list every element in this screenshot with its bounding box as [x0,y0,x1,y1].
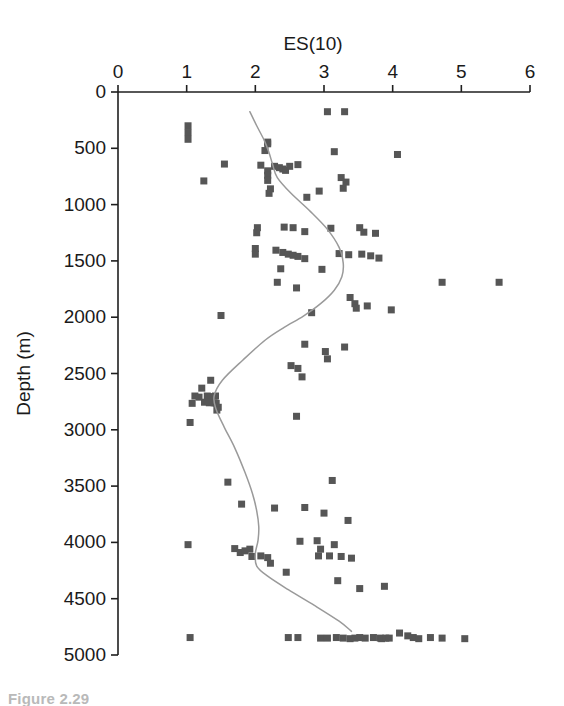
data-point [200,177,207,184]
axes-group [111,85,530,655]
data-point [293,413,300,420]
data-point [439,279,446,286]
data-point [283,569,290,576]
y-tick-label: 500 [74,137,106,158]
data-point [317,546,324,553]
data-point [185,129,192,136]
data-point [342,179,349,186]
y-tick-label: 3500 [64,475,106,496]
data-point [271,505,278,512]
data-point [333,634,340,641]
data-point [345,251,352,258]
data-point [364,302,371,309]
data-point [324,108,331,115]
data-point [318,266,325,273]
data-point [388,306,395,313]
data-point [238,501,245,508]
x-tick-label: 1 [181,61,192,82]
data-point [340,635,347,642]
data-point [396,630,403,637]
data-point [185,136,192,143]
figure-caption: Figure 2.29 [8,690,89,706]
data-point [348,555,355,562]
data-point [329,477,336,484]
data-point [353,305,360,312]
x-tick-label: 6 [525,61,536,82]
data-point [274,279,281,286]
data-point [362,635,369,642]
data-point [375,255,382,262]
data-point [257,552,264,559]
data-point [189,400,196,407]
y-tick-label: 4000 [64,531,106,552]
data-point [221,161,228,168]
data-point [317,635,324,642]
data-point [324,355,331,362]
y-tick-label: 2500 [64,363,106,384]
data-point [290,224,297,231]
data-point [322,348,329,355]
data-point [248,553,255,560]
data-point [272,247,279,254]
data-point [314,537,321,544]
data-point [187,634,194,641]
data-point [185,122,192,129]
scatter-plot-canvas: 0123456050010001500200025003000350040004… [0,0,564,706]
y-tick-label: 5000 [64,644,106,665]
data-point [367,252,374,259]
data-point [266,190,273,197]
data-point [246,546,253,553]
data-point [286,163,293,170]
data-point [340,185,347,192]
data-point [341,108,348,115]
data-point [321,510,328,517]
data-point [326,552,333,559]
data-point [294,365,301,372]
data-point [293,284,300,291]
y-tick-label: 2000 [64,306,106,327]
data-point [281,224,288,231]
x-tick-label: 0 [113,61,124,82]
data-point [288,362,295,369]
data-point [264,177,271,184]
data-point [185,541,192,548]
data-point [294,634,301,641]
y-tick-label: 1000 [64,194,106,215]
data-point [461,635,468,642]
data-point [257,162,264,169]
x-tick-label: 5 [456,61,467,82]
data-point [218,312,225,319]
data-point [299,373,306,380]
y-axis-title: Depth (m) [13,331,34,415]
data-point [331,541,338,548]
data-point [358,251,365,258]
data-point [415,635,422,642]
x-tick-label: 4 [387,61,398,82]
data-markers-group [185,108,503,642]
data-point [356,585,363,592]
y-tick-label: 0 [95,81,106,102]
figure-root: 0123456050010001500200025003000350040004… [0,0,564,706]
data-point [427,634,434,641]
data-point [334,577,341,584]
data-point [301,255,308,262]
data-point [252,251,259,258]
axis-labels-group: 0123456050010001500200025003000350040004… [13,33,535,665]
data-point [496,279,503,286]
data-point [296,538,303,545]
data-point [394,151,401,158]
y-tick-label: 4500 [64,588,106,609]
x-tick-label: 3 [319,61,330,82]
data-point [439,635,446,642]
data-point [253,229,260,236]
data-point [187,419,194,426]
data-point [370,634,377,641]
x-tick-label: 2 [250,61,261,82]
data-point [381,583,388,590]
data-point [301,228,308,235]
data-point [285,634,292,641]
data-point [324,635,331,642]
data-point [207,377,214,384]
data-point [331,148,338,155]
data-point [303,194,310,201]
